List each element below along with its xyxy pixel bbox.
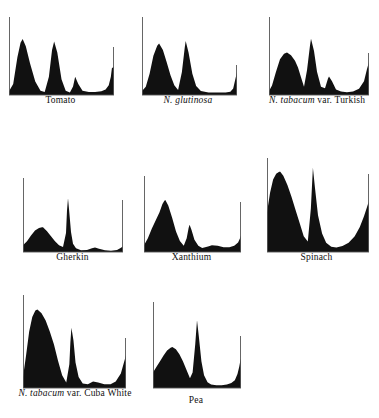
panel-xanthium	[143, 158, 242, 254]
panel-spinach	[266, 140, 370, 254]
panel-label-species-n-tabacum-cuba-white: N. tabacum	[18, 388, 64, 398]
panel-label-text-tomato: Tomato	[45, 95, 75, 105]
panel-label-text-gherkin: Gherkin	[56, 252, 89, 262]
panel-pea	[152, 284, 242, 390]
panel-label-text-xanthium: Xanthium	[172, 252, 212, 262]
panel-label-n-tabacum-cuba-white: N. tabacum var. Cuba White	[0, 388, 150, 398]
trace-area-xanthium	[144, 200, 241, 252]
panel-gherkin	[22, 160, 124, 254]
panel-label-species-n-glutinosa: N. glutinosa	[164, 95, 213, 105]
panel-n-tabacum-turkish	[268, 0, 370, 97]
trace-area-n-tabacum-turkish	[269, 39, 369, 95]
trace-area-spinach	[267, 168, 369, 252]
panel-n-tabacum-cuba-white	[22, 277, 127, 390]
panel-n-glutinosa	[141, 0, 238, 97]
panel-label-text-pea: Pea	[189, 395, 203, 405]
panel-tomato	[8, 0, 115, 97]
panel-label-n-glutinosa: N. glutinosa	[133, 95, 243, 105]
panel-label-xanthium: Xanthium	[139, 252, 244, 262]
panel-label-variety-n-tabacum-cuba-white: var. Cuba White	[64, 388, 131, 398]
figure-panel-grid: TomatoN. glutinosaN. tabacum var. Turkis…	[0, 0, 379, 418]
panel-label-text-spinach: Spinach	[300, 252, 332, 262]
panel-label-n-tabacum-turkish: N. tabacum var. Turkish	[255, 95, 379, 105]
trace-area-pea	[153, 320, 241, 388]
panel-label-species-n-tabacum-turkish: N. tabacum	[269, 95, 315, 105]
trace-area-n-glutinosa	[142, 41, 237, 95]
trace-area-gherkin	[23, 198, 123, 252]
panel-label-spinach: Spinach	[264, 252, 369, 262]
panel-label-variety-n-tabacum-turkish: var. Turkish	[315, 95, 365, 105]
panel-label-tomato: Tomato	[8, 95, 113, 105]
trace-area-tomato	[9, 39, 114, 95]
panel-label-pea: Pea	[146, 395, 246, 405]
trace-area-n-tabacum-cuba-white	[23, 310, 126, 388]
panel-label-gherkin: Gherkin	[20, 252, 125, 262]
